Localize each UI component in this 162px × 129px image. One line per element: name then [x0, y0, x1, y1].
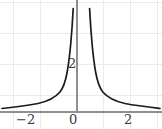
curve-group — [0, 0, 162, 129]
x-tick-label-pos2: 2 — [124, 113, 132, 126]
function-plot-figure: −2 0 2 2 — [0, 0, 162, 129]
x-tick-label-zero: 0 — [69, 113, 77, 126]
y-tick-label-two: 2 — [68, 57, 76, 70]
curve-left-branch — [2, 9, 73, 109]
curve-right-branch — [90, 9, 160, 109]
x-tick-label-neg2: −2 — [16, 113, 35, 126]
